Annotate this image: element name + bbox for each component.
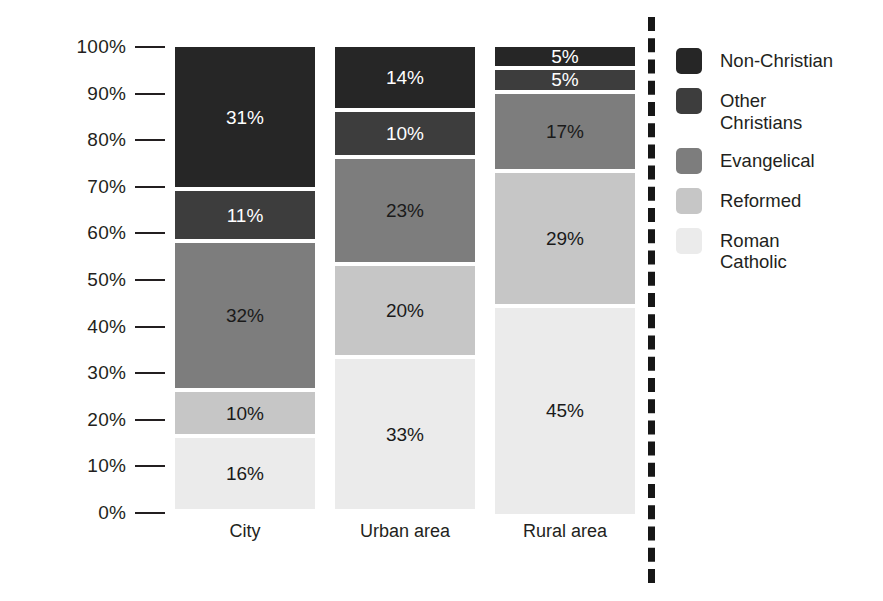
legend-swatch <box>676 148 702 174</box>
legend-divider <box>648 17 655 583</box>
bar-segment[interactable]: 10% <box>175 392 315 435</box>
bar-segment-label: 29% <box>546 229 584 248</box>
bar-segment[interactable]: 14% <box>335 47 475 108</box>
bar-segment-label: 20% <box>386 301 424 320</box>
legend-label: Evangelical <box>720 148 815 172</box>
bar-segment-label: 23% <box>386 201 424 220</box>
stacked-bar-chart: 0%10%20%30%40%50%60%70%80%90%100% 31%11%… <box>0 0 883 601</box>
legend-item[interactable]: Evangelical <box>676 148 876 174</box>
legend-swatch <box>676 48 702 74</box>
bar-segment-label: 10% <box>386 124 424 143</box>
bar-segment[interactable]: 10% <box>335 112 475 155</box>
bar-stack: 31%11%32%10%16% <box>175 47 315 513</box>
bar-segment-label: 10% <box>226 404 264 423</box>
legend-label: Reformed <box>720 188 801 212</box>
bar-segment-label: 5% <box>551 70 578 89</box>
bar-segment-label: 17% <box>546 122 584 141</box>
bar-segment[interactable]: 20% <box>335 266 475 355</box>
bar-segment-label: 32% <box>226 306 264 325</box>
bar-segment[interactable]: 5% <box>495 70 635 89</box>
chart-legend: Non-ChristianOther ChristiansEvangelical… <box>676 48 876 287</box>
bar-group-urban-area: 14%10%23%20%33%Urban area <box>335 47 475 513</box>
bar-segment-label: 31% <box>226 108 264 127</box>
bar-segment[interactable]: 11% <box>175 191 315 238</box>
bar-segment[interactable]: 45% <box>495 308 635 514</box>
legend-label: Roman Catholic <box>720 228 787 274</box>
bar-segment-label: 11% <box>227 206 264 225</box>
bar-segment-label: 45% <box>546 401 584 420</box>
bar-segment-label: 14% <box>386 68 424 87</box>
bar-segment[interactable]: 31% <box>175 47 315 187</box>
legend-label: Non-Christian <box>720 48 833 72</box>
legend-swatch <box>676 188 702 214</box>
bar-segment[interactable]: 5% <box>495 47 635 66</box>
x-axis-category-label: Rural area <box>495 521 635 542</box>
bar-segment[interactable]: 23% <box>335 159 475 262</box>
legend-label: Other Christians <box>720 88 802 134</box>
bar-stack: 5%5%17%29%45% <box>495 47 635 513</box>
legend-item[interactable]: Other Christians <box>676 88 876 134</box>
legend-item[interactable]: Reformed <box>676 188 876 214</box>
legend-item[interactable]: Non-Christian <box>676 48 876 74</box>
x-axis-category-label: City <box>175 521 315 542</box>
x-axis-category-label: Urban area <box>335 521 475 542</box>
bar-segment[interactable]: 29% <box>495 173 635 304</box>
bar-segment-label: 33% <box>386 425 424 444</box>
bar-segment[interactable]: 32% <box>175 243 315 388</box>
bar-segment[interactable]: 17% <box>495 94 635 169</box>
bar-segment-label: 5% <box>551 47 578 66</box>
legend-swatch <box>676 228 702 254</box>
bar-group-city: 31%11%32%10%16%City <box>175 47 315 513</box>
legend-item[interactable]: Roman Catholic <box>676 228 876 274</box>
plot-area: 31%11%32%10%16%City14%10%23%20%33%Urban … <box>0 0 640 601</box>
bar-segment[interactable]: 33% <box>335 359 475 509</box>
bar-stack: 14%10%23%20%33% <box>335 47 475 513</box>
bar-segment[interactable]: 16% <box>175 438 315 509</box>
bar-segment-label: 16% <box>226 464 264 483</box>
legend-swatch <box>676 88 702 114</box>
bar-group-rural-area: 5%5%17%29%45%Rural area <box>495 47 635 513</box>
